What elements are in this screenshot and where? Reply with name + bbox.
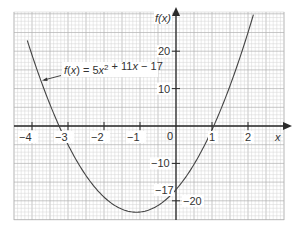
x-tick-label: −3: [55, 131, 68, 143]
quadratic-chart: −4−3−2−10122010−10−20 f(x) = 5x2 + 11x −…: [0, 0, 299, 229]
x-axis-arrow-icon: [283, 122, 292, 130]
x-tick-label: −2: [91, 131, 104, 143]
x-tick-label: −1: [127, 131, 140, 143]
y-intercept-label: −17: [155, 184, 174, 196]
x-tick-label: 0: [167, 130, 173, 142]
x-tick-label: −4: [19, 131, 32, 143]
y-axis-label: f(x): [155, 12, 171, 24]
y-tick-label: 20: [158, 45, 170, 57]
y-tick-label: −20: [183, 195, 202, 207]
x-axis-label: x: [274, 131, 281, 143]
x-tick-label: 2: [245, 131, 251, 143]
x-tick-label: 1: [209, 131, 215, 143]
y-tick-label: 10: [158, 83, 170, 95]
y-axis-arrow-icon: [172, 7, 180, 16]
y-tick-label: −10: [151, 157, 170, 169]
